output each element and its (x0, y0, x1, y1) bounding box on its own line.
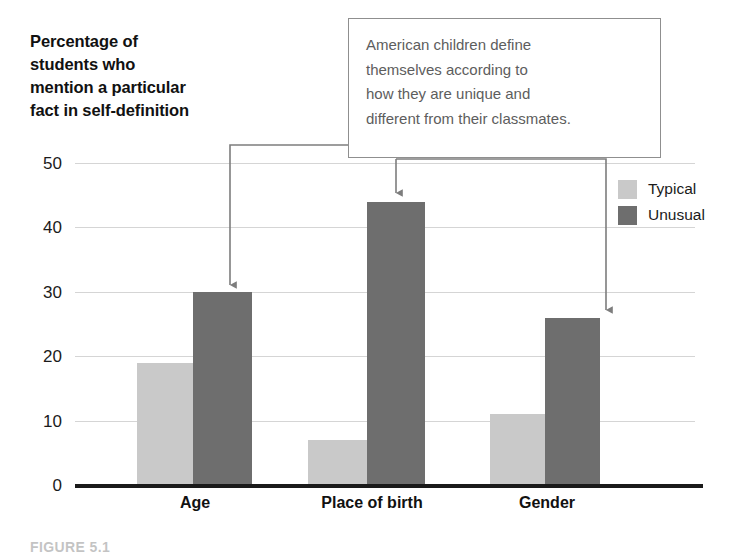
gridline-50 (75, 163, 695, 164)
bar-place-of-birth-unusual (367, 202, 425, 485)
legend-label-unusual: Unusual (648, 207, 705, 223)
figure-container: Percentage of students who mention a par… (0, 0, 756, 552)
figure-caption: FIGURE 5.1 (30, 539, 110, 552)
callout-box: American children define themselves acco… (348, 18, 661, 158)
y-tick-label-10: 10 (14, 413, 62, 430)
x-category-label-gender: Gender (487, 495, 607, 511)
bar-gender-typical (490, 414, 545, 485)
bar-gender-unusual (545, 318, 600, 485)
legend-label-typical: Typical (648, 181, 696, 197)
y-tick-label-50: 50 (14, 155, 62, 172)
bar-age-unusual (193, 292, 252, 485)
x-axis-line (75, 484, 703, 488)
y-axis-title: Percentage of students who mention a par… (30, 30, 330, 122)
legend-item-unusual: Unusual (618, 202, 705, 228)
plot-area (75, 163, 695, 485)
y-tick-label-40: 40 (14, 219, 62, 236)
legend-swatch-typical-icon (618, 180, 637, 199)
x-category-label-place-of-birth: Place of birth (292, 495, 452, 511)
bar-place-of-birth-typical (308, 440, 367, 485)
legend-item-typical: Typical (618, 176, 705, 202)
legend: Typical Unusual (618, 176, 705, 228)
legend-swatch-unusual-icon (618, 206, 637, 225)
y-tick-label-20: 20 (14, 348, 62, 365)
y-tick-label-0: 0 (14, 477, 62, 494)
bar-age-typical (137, 363, 193, 485)
callout-text: American children define themselves acco… (366, 33, 644, 131)
y-tick-label-30: 30 (14, 284, 62, 301)
x-category-label-age: Age (135, 495, 255, 511)
